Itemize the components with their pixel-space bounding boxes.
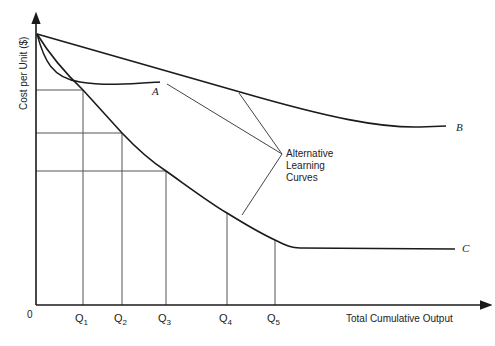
annotation-line-2: Learning <box>286 160 325 171</box>
y-axis-label: Cost per Unit ($) <box>18 37 29 110</box>
origin-label: 0 <box>27 309 33 320</box>
curve-c-label: C <box>462 242 470 254</box>
annotation-line-1: Alternative <box>286 148 334 159</box>
learning-curve-diagram: A B C Alternative Learning Curves Cost p… <box>0 0 495 346</box>
q-tick-1: Q1 <box>75 312 89 327</box>
curve-c <box>37 34 455 249</box>
q-tick-4: Q4 <box>219 312 233 327</box>
q-tick-5: Q5 <box>267 312 281 327</box>
curve-a-label: A <box>151 85 159 97</box>
horizontal-guides <box>36 90 166 171</box>
annotation-line-3: Curves <box>286 172 318 183</box>
q-tick-2: Q2 <box>114 312 128 327</box>
q-tick-3: Q3 <box>158 312 172 327</box>
q-tick-labels: Q1 Q2 Q3 Q4 Q5 <box>75 312 281 327</box>
annotation-pointers <box>167 84 282 215</box>
x-axis-label: Total Cumulative Output <box>346 313 453 324</box>
curve-b <box>37 34 446 127</box>
curve-b-label: B <box>456 121 463 133</box>
